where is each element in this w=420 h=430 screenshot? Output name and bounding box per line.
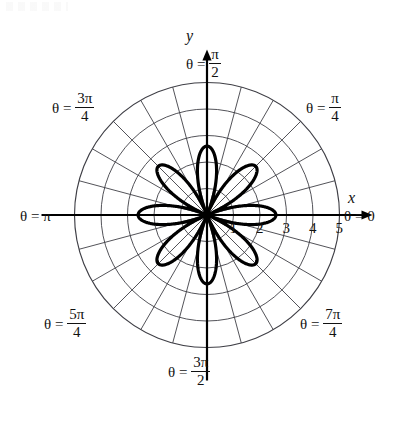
theta-fraction: 5π4 (67, 307, 86, 339)
fraction-numerator: 3π (191, 355, 210, 371)
theta-fraction: 3π2 (191, 355, 210, 387)
x-axis-label: x (348, 190, 355, 206)
fraction-numerator: π (329, 91, 341, 107)
polar-plot-figure: 12345 θ = 0θ = π4θ = π2θ = 3π4θ = πθ = 5… (0, 0, 420, 430)
theta-value: 0 (367, 209, 375, 224)
fraction-denominator: 4 (67, 324, 86, 340)
radial-tick-label-3: 3 (283, 221, 291, 236)
theta-equals-prefix: θ = (300, 317, 319, 332)
theta-equals-prefix: θ = (52, 101, 71, 116)
theta-pi-2-label: θ = π2 (186, 48, 221, 80)
theta-equals-prefix: θ = (44, 317, 63, 332)
theta-pi-4-label: θ = π4 (306, 92, 341, 124)
theta-5pi-4-label: θ = 5π4 (44, 308, 86, 340)
theta-fraction: π4 (329, 91, 341, 123)
theta-fraction: 7π4 (323, 307, 342, 339)
fraction-denominator: 4 (75, 108, 94, 124)
theta-fraction: 3π4 (75, 91, 94, 123)
theta-value: π (43, 209, 51, 224)
fraction-denominator: 2 (191, 372, 210, 388)
theta-equals-prefix: θ = (20, 209, 39, 224)
fraction-numerator: π (209, 47, 221, 63)
radial-tick-label-2: 2 (256, 221, 264, 236)
fraction-numerator: 7π (323, 307, 342, 323)
theta-fraction: π2 (209, 47, 221, 79)
y-axis-label: y (186, 28, 193, 44)
fraction-denominator: 4 (329, 108, 341, 124)
theta-equals-prefix: θ = (168, 365, 187, 380)
fraction-numerator: 5π (67, 307, 86, 323)
theta-equals-prefix: θ = (344, 209, 363, 224)
grid-spoke-135 (113, 121, 207, 215)
grid-spoke-225 (113, 215, 207, 309)
radial-tick-label-5: 5 (336, 221, 344, 236)
radial-tick-label-4: 4 (309, 221, 317, 236)
fraction-denominator: 4 (323, 324, 342, 340)
radial-tick-label-1: 1 (230, 221, 238, 236)
theta-3pi-2-label: θ = 3π2 (168, 356, 210, 388)
theta-equals-prefix: θ = (186, 57, 205, 72)
theta-0-label: θ = 0 (344, 208, 375, 224)
grid-spoke-45 (207, 121, 301, 215)
theta-7pi-4-label: θ = 7π4 (300, 308, 342, 340)
theta-pi-label: θ = π (20, 208, 51, 224)
fraction-numerator: 3π (75, 91, 94, 107)
fraction-denominator: 2 (209, 64, 221, 80)
theta-equals-prefix: θ = (306, 101, 325, 116)
theta-3pi-4-label: θ = 3π4 (52, 92, 94, 124)
